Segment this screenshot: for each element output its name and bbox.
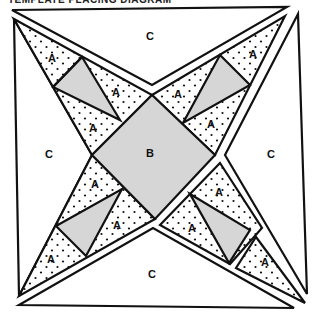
label-a-bl-2: A xyxy=(113,219,121,231)
quilt-block-diagram: C C C C B A A A A A A A A A A A A xyxy=(0,0,319,318)
label-a-bl-1: A xyxy=(91,178,99,190)
label-b-center: B xyxy=(146,147,154,159)
label-c-left: C xyxy=(45,148,53,160)
label-a-tr-2: A xyxy=(174,88,182,100)
label-a-br-3: A xyxy=(261,256,269,268)
label-a-tl-1: A xyxy=(48,52,56,64)
label-a-br-2: A xyxy=(188,222,196,234)
label-c-bottom: C xyxy=(148,268,156,280)
label-a-tr-1: A xyxy=(249,48,257,60)
label-a-br-1: A xyxy=(215,186,223,198)
label-a-bl-3: A xyxy=(47,253,55,265)
label-c-top: C xyxy=(146,30,154,42)
label-a-tl-2: A xyxy=(112,86,120,98)
label-a-tl-3: A xyxy=(89,122,97,134)
label-c-right: C xyxy=(267,148,275,160)
label-a-tr-3: A xyxy=(207,118,215,130)
